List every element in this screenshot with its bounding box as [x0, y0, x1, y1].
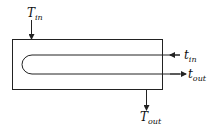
hairpin-tube — [22, 55, 180, 74]
label-t-in: tin — [184, 48, 197, 64]
heat-exchanger-diagram: Tin tin tout Tout — [0, 0, 212, 129]
shell-box — [13, 40, 163, 90]
label-t-out: tout — [188, 67, 207, 83]
label-T-in: Tin — [27, 6, 43, 22]
label-T-out: Tout — [140, 110, 162, 126]
